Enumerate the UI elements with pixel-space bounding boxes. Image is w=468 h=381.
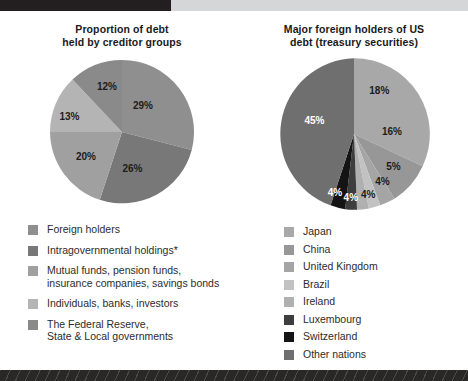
legend-item-intragovernmental-holdings[interactable]: Intragovernmental holdings* (28, 244, 238, 257)
legend-item-switzerland[interactable]: Switzerland (284, 330, 468, 343)
legend-item-label: Japan (303, 225, 332, 238)
legend-item-label: Mutual funds, pension funds, insurance c… (47, 264, 219, 289)
legend-swatch-icon (28, 299, 38, 309)
legend-item-label: The Federal Reserve, State & Local gover… (47, 318, 173, 343)
header-bar-light (171, 0, 468, 11)
left-chart-title: Proportion of debt held by creditor grou… (6, 11, 238, 49)
legend-item-label: Ireland (303, 295, 335, 308)
right-chart-title-line2: debt (treasury securities) (240, 36, 468, 49)
legend-item-label: Brazil (303, 278, 329, 291)
legend-item-label: United Kingdom (303, 260, 378, 273)
chart-panel-foreign-holders: Major foreign holders of US debt (treasu… (240, 11, 468, 365)
legend-item-mutual-funds[interactable]: Mutual funds, pension funds, insurance c… (28, 264, 238, 289)
legend-item-label: Other nations (303, 348, 366, 361)
legend-swatch-icon (284, 350, 294, 360)
right-chart-title: Major foreign holders of US debt (treasu… (240, 11, 468, 49)
left-pie-chart: 29% 26% 20% 13% 12% (47, 57, 197, 207)
left-chart-title-line2: held by creditor groups (6, 36, 238, 49)
right-chart-title-line1: Major foreign holders of US (240, 23, 468, 36)
chart-panel-debt-by-creditor: Proportion of debt held by creditor grou… (6, 11, 238, 351)
header-bar-dark (0, 0, 171, 11)
legend-item-label: Foreign holders (47, 223, 120, 236)
legend-swatch-icon (284, 245, 294, 255)
legend-item-united-kingdom[interactable]: United Kingdom (284, 260, 468, 273)
legend-item-label: Individuals, banks, investors (47, 297, 178, 310)
legend-swatch-icon (284, 280, 294, 290)
left-chart-title-line1: Proportion of debt (6, 23, 238, 36)
legend-item-foreign-holders[interactable]: Foreign holders (28, 223, 238, 236)
legend-swatch-icon (28, 266, 38, 276)
legend-item-label: Switzerland (303, 330, 357, 343)
left-chart-legend: Foreign holders Intragovernmental holdin… (28, 223, 238, 343)
legend-swatch-icon (28, 246, 38, 256)
footer-bar (0, 370, 468, 381)
legend-item-label: Luxembourg (303, 313, 361, 326)
legend-item-ireland[interactable]: Ireland (284, 295, 468, 308)
legend-item-individuals-banks-investors[interactable]: Individuals, banks, investors (28, 297, 238, 310)
legend-swatch-icon (28, 225, 38, 235)
legend-swatch-icon (28, 320, 38, 330)
legend-item-brazil[interactable]: Brazil (284, 278, 468, 291)
legend-swatch-icon (284, 315, 294, 325)
right-chart-legend: Japan China United Kingdom Brazil Irelan… (284, 225, 468, 360)
legend-item-luxembourg[interactable]: Luxembourg (284, 313, 468, 326)
legend-item-other-nations[interactable]: Other nations (284, 348, 468, 361)
legend-item-label: China (303, 243, 330, 256)
legend-item-japan[interactable]: Japan (284, 225, 468, 238)
right-pie-svg (275, 55, 433, 213)
charts-container: Proportion of debt held by creditor grou… (0, 11, 468, 370)
legend-item-china[interactable]: China (284, 243, 468, 256)
legend-item-federal-reserve[interactable]: The Federal Reserve, State & Local gover… (28, 318, 238, 343)
legend-item-label: Intragovernmental holdings* (47, 244, 178, 257)
legend-swatch-icon (284, 262, 294, 272)
legend-swatch-icon (284, 297, 294, 307)
legend-swatch-icon (284, 227, 294, 237)
right-pie-chart: 18% 16% 5% 4% 4% 4% 4% 45% (275, 55, 433, 213)
left-pie-svg (47, 57, 197, 207)
legend-swatch-icon (284, 332, 294, 342)
